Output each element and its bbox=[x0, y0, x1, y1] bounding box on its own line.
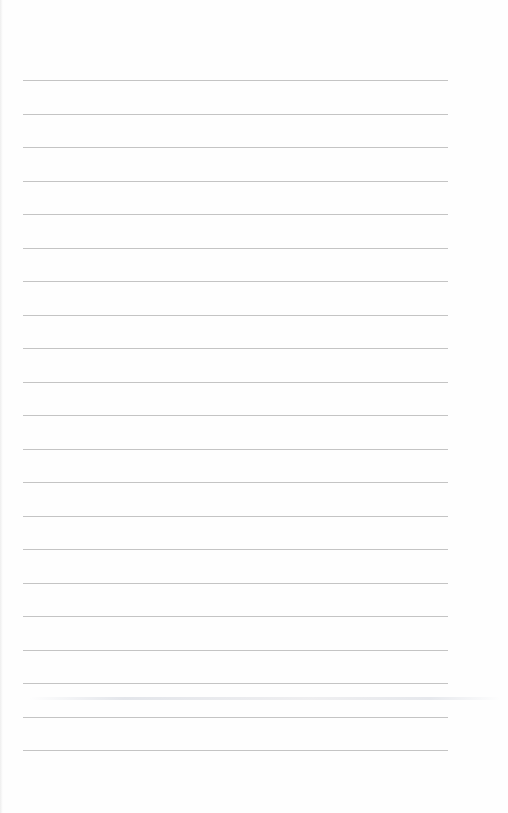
ruled-line bbox=[23, 348, 448, 349]
ruled-line bbox=[23, 516, 448, 517]
ruled-line bbox=[23, 449, 448, 450]
ruled-line bbox=[23, 549, 448, 550]
scan-smudge bbox=[30, 697, 500, 700]
ruled-line bbox=[23, 717, 448, 718]
ruled-line bbox=[23, 114, 448, 115]
ruled-line bbox=[23, 181, 448, 182]
ruled-line bbox=[23, 80, 448, 81]
ruled-line bbox=[23, 750, 448, 751]
ruled-line bbox=[23, 147, 448, 148]
page-edge-shadow bbox=[0, 0, 3, 813]
ruled-line bbox=[23, 281, 448, 282]
ruled-line bbox=[23, 583, 448, 584]
ruled-line bbox=[23, 616, 448, 617]
ruled-line bbox=[23, 214, 448, 215]
lined-paper-page bbox=[0, 0, 508, 813]
ruled-line bbox=[23, 382, 448, 383]
ruled-line bbox=[23, 415, 448, 416]
ruled-line bbox=[23, 482, 448, 483]
ruled-line bbox=[23, 650, 448, 651]
ruled-line bbox=[23, 248, 448, 249]
ruled-line bbox=[23, 683, 448, 684]
ruled-line bbox=[23, 315, 448, 316]
